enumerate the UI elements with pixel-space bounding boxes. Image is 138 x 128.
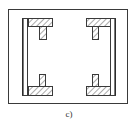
- top-left-t-section: [29, 19, 53, 40]
- cross-section-figure: c): [0, 0, 138, 128]
- top-left-flange: [29, 19, 53, 27]
- top-right-flange: [87, 19, 111, 27]
- figure-caption: c): [0, 108, 138, 120]
- bottom-right-stem: [93, 75, 99, 87]
- bottom-left-t-section: [29, 75, 53, 96]
- right-side-plate: [111, 19, 116, 96]
- bottom-right-t-section: [87, 75, 111, 96]
- bottom-left-flange: [29, 87, 53, 96]
- top-right-stem: [93, 27, 99, 40]
- bottom-left-stem: [40, 75, 46, 87]
- left-side-plate: [23, 19, 28, 96]
- bottom-right-flange: [87, 87, 111, 96]
- top-right-t-section: [87, 19, 111, 40]
- top-left-stem: [40, 27, 47, 40]
